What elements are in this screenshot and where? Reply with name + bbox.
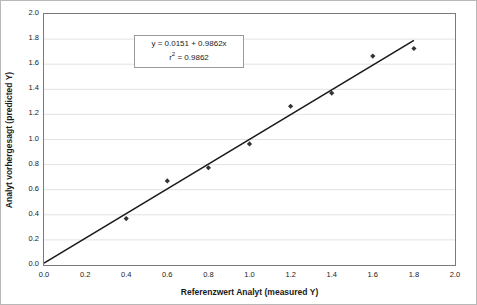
data-point xyxy=(165,178,170,183)
y-tick-label: 1.6 xyxy=(5,59,39,67)
x-tick-label: 0.2 xyxy=(65,271,105,279)
x-axis-title: Referenzwert Analyt (measured Y) xyxy=(43,287,456,297)
y-tick-label: 1.0 xyxy=(5,135,39,143)
x-tick-label: 1.0 xyxy=(230,271,270,279)
equation-annotation-box: y = 0.0151 + 0.9862x r2 = 0.9862 xyxy=(134,35,244,68)
data-point-markers xyxy=(124,46,417,221)
data-point xyxy=(288,104,293,109)
x-tick-label: 1.6 xyxy=(353,271,393,279)
y-tick-label: 2.0 xyxy=(5,9,39,17)
x-tick-label: 0.0 xyxy=(24,271,64,279)
plot-canvas xyxy=(44,14,455,265)
y-tick-label: 0.8 xyxy=(5,160,39,168)
r-squared-text: r2 = 0.9862 xyxy=(140,50,238,63)
x-axis-tick-labels: 0.00.20.40.60.81.01.21.41.61.82.0 xyxy=(43,271,456,283)
x-tick-label: 0.6 xyxy=(147,271,187,279)
data-point xyxy=(124,216,129,221)
regression-line xyxy=(44,40,414,263)
chart-figure: Analyt vorhergesagt (predicted Y) 0.00.2… xyxy=(0,0,477,305)
y-tick-label: 0.6 xyxy=(5,185,39,193)
y-axis-tick-labels: 0.00.20.40.60.81.01.21.41.61.82.0 xyxy=(1,13,39,266)
y-tick-label: 0.0 xyxy=(5,260,39,268)
fit-line xyxy=(44,40,414,263)
x-tick-label: 0.4 xyxy=(106,271,146,279)
y-tick-label: 1.8 xyxy=(5,34,39,42)
x-tick-label: 1.4 xyxy=(312,271,352,279)
plot-area xyxy=(43,13,456,266)
y-tick-label: 1.2 xyxy=(5,110,39,118)
data-point xyxy=(247,141,252,146)
r-squared-value: = 0.9862 xyxy=(175,52,209,61)
y-tick-label: 0.4 xyxy=(5,210,39,218)
x-tick-label: 2.0 xyxy=(435,271,475,279)
y-tick-label: 0.2 xyxy=(5,235,39,243)
data-point xyxy=(411,46,416,51)
x-tick-label: 0.8 xyxy=(188,271,228,279)
y-tick-label: 1.4 xyxy=(5,85,39,93)
x-tick-label: 1.8 xyxy=(394,271,434,279)
data-point xyxy=(370,53,375,58)
x-tick-label: 1.2 xyxy=(271,271,311,279)
equation-text: y = 0.0151 + 0.9862x xyxy=(140,39,238,50)
